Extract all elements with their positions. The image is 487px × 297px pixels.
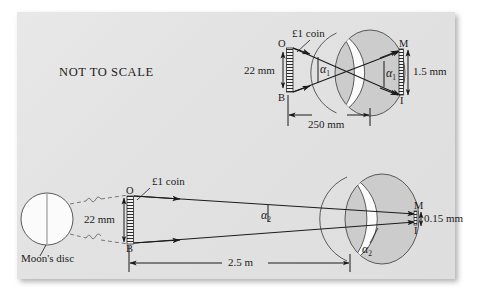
point-M-bottom: M xyxy=(414,201,423,212)
bottom-diagram xyxy=(21,174,421,272)
object-size-bottom: 22 mm xyxy=(84,214,115,225)
object-size-top: 22 mm xyxy=(244,65,275,76)
leader-coin-top xyxy=(297,40,310,52)
image-bottom xyxy=(414,211,417,225)
figure-root: NOT TO SCALE £1 coin O B 22 mm α1 α1 M I… xyxy=(0,0,487,297)
point-B-top: B xyxy=(278,93,285,104)
image-top xyxy=(399,49,404,95)
moons-disc-label: Moon's disc xyxy=(21,253,74,264)
distance-250mm-label: 250 mm xyxy=(308,119,344,130)
point-I-bottom: I xyxy=(414,226,418,237)
point-O-bottom: O xyxy=(126,186,134,197)
object-coin-top xyxy=(287,48,294,92)
distance-2p5m-label: 2.5 m xyxy=(228,257,253,268)
angle-alpha1-left-label: α1 xyxy=(320,63,330,78)
angle-alpha2-left-label: α2 xyxy=(261,209,271,224)
image-size-top: 1.5 mm xyxy=(413,66,447,77)
angle-alpha1-right-label: α1 xyxy=(386,67,396,82)
coin-label-top: £1 coin xyxy=(292,28,325,39)
point-O-top: O xyxy=(278,39,286,50)
point-M-top: M xyxy=(399,39,408,50)
image-size-bottom: 0.15 mm xyxy=(424,213,463,224)
leader-coin-bottom xyxy=(137,188,150,200)
moons-disc xyxy=(21,193,73,256)
coin-label-bottom: £1 coin xyxy=(152,176,185,187)
object-coin-bottom xyxy=(127,196,134,244)
angle-alpha2-right-label: α2 xyxy=(362,243,372,258)
point-I-top: I xyxy=(400,96,404,107)
not-to-scale-note: NOT TO SCALE xyxy=(59,66,154,79)
point-B-bottom: B xyxy=(126,244,133,255)
